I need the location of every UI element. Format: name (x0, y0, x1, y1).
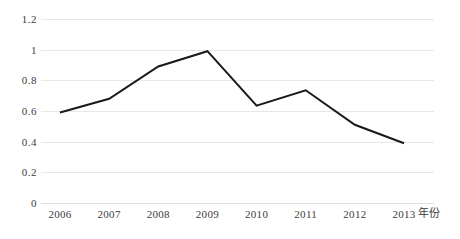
y-axis-tick-label: 0.6 (3, 106, 37, 117)
y-axis-tick-label: 0.4 (3, 137, 37, 148)
x-axis-title: 年份 (418, 207, 440, 221)
y-axis-tick-label: 1 (3, 45, 37, 56)
x-axis-tick-label: 2009 (182, 208, 232, 221)
x-axis-tick-label: 2007 (84, 208, 134, 221)
x-axis-tick-label: 2008 (133, 208, 183, 221)
x-axis-tick-label: 2006 (35, 208, 85, 221)
y-axis-tick-labels: 1.2 1 0.8 0.6 0.4 0.2 0 (0, 19, 37, 203)
y-axis-tick-label: 0.8 (3, 75, 37, 86)
x-axis-tick-label: 2010 (232, 208, 282, 221)
plot-area (41, 19, 434, 203)
y-axis-tick-label: 1.2 (3, 14, 37, 25)
gridline-0-axis (41, 203, 434, 204)
x-axis-tick-labels: 2006 2007 2008 2009 2010 2011 2012 2013 (41, 208, 434, 224)
x-axis-tick-label: 2011 (281, 208, 331, 221)
line-chart-figure: 1.2 1 0.8 0.6 0.4 0.2 0 2006 2007 2008 2… (0, 0, 460, 239)
y-axis-tick-label: 0 (3, 198, 37, 209)
y-axis-tick-label: 0.2 (3, 167, 37, 178)
x-axis-tick-label: 2012 (330, 208, 380, 221)
data-series-line (41, 19, 434, 203)
